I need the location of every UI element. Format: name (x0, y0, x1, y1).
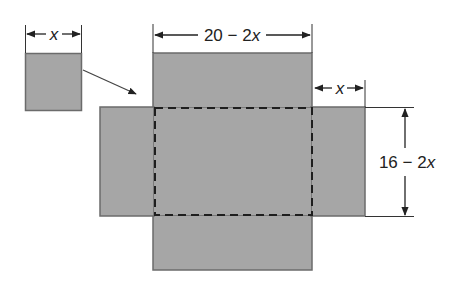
base-width-label: 20 − 2x (204, 26, 261, 45)
box-net (100, 53, 365, 270)
box-net-diagram: x 20 − 2x x 16 − 2x (0, 0, 455, 288)
top-flap (153, 53, 312, 108)
flap-width-dimension: x (315, 79, 365, 107)
base-height-dimension: 16 − 2x (365, 108, 436, 217)
left-flap (100, 107, 154, 216)
base (154, 108, 311, 215)
base-height-label: 16 − 2x (379, 153, 436, 172)
base-width-dimension: 20 − 2x (153, 24, 312, 53)
flap-width-label: x (335, 79, 345, 98)
corner-square-label: x (49, 25, 59, 44)
bottom-flap (153, 215, 312, 270)
corner-square (26, 54, 82, 111)
right-flap (311, 107, 365, 216)
corner-square-dimension: x (26, 25, 82, 53)
pointer-arrow (83, 70, 136, 94)
